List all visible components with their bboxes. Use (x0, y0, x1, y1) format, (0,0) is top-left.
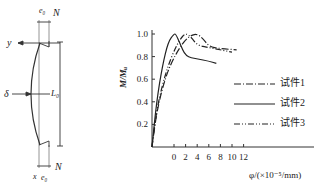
legend-label-2: 试件2 (280, 98, 305, 108)
x-tick-label: 8 (218, 152, 223, 162)
x-tick-label: 2 (183, 152, 188, 162)
figure: e₀ N y δ L₀ x e₀ N 024681012 0.20.40.60.… (0, 0, 322, 185)
x-tick-label: 6 (207, 152, 212, 162)
curve-series-3 (152, 34, 232, 147)
curve-series-1 (152, 34, 237, 147)
y-tick-label: 0.6 (137, 74, 149, 84)
x-tick-label: 12 (239, 152, 248, 162)
x-tick-label: 10 (228, 152, 238, 162)
y-tick-label: 1.0 (137, 29, 149, 39)
x-tick-label: 4 (195, 152, 200, 162)
y-tick-label: 0.4 (137, 97, 149, 107)
y-tick-label: 0.8 (137, 52, 149, 62)
legend-label-1: 试件1 (280, 78, 305, 88)
y-axis-label: M/Mᵤ (118, 67, 128, 88)
x-tick-label: 0 (172, 152, 177, 162)
y-tick-label: 0.2 (137, 119, 148, 129)
moment-curvature-chart: 024681012 0.20.40.60.81.0 (0, 0, 322, 185)
legend-label-3: 试件3 (280, 118, 305, 128)
x-axis-label: φ/(×10⁻⁵/mm) (249, 170, 301, 180)
